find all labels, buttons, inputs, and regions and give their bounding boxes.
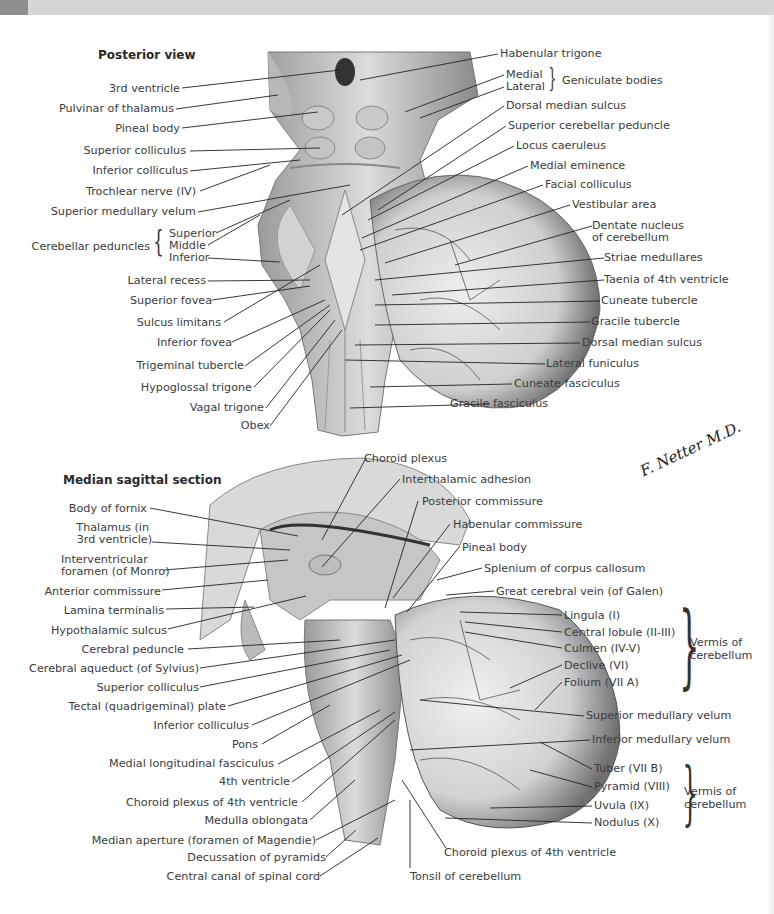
label-lamina-terminalis: Lamina terminalis	[64, 604, 164, 617]
label-medial-eminence: Medial eminence	[530, 159, 625, 172]
label-nodulus: Nodulus (X)	[594, 816, 659, 829]
label-pulvinar-of-thalamus: Pulvinar of thalamus	[59, 102, 174, 115]
label-geniculate-lateral: Lateral	[506, 80, 545, 93]
label-inferior-colliculus-sag: Inferior colliculus	[153, 719, 249, 732]
label-pons: Pons	[232, 738, 258, 751]
label-decussation-of-pyramids: Decussation of pyramids	[187, 851, 326, 864]
label-4th-ventricle: 4th ventricle	[219, 775, 290, 788]
label-trigeminal-tubercle: Trigeminal tubercle	[137, 359, 244, 372]
label-habenular-commissure: Habenular commissure	[453, 518, 582, 531]
label-uvula: Uvula (IX)	[594, 799, 649, 812]
label-body-of-fornix: Body of fornix	[69, 502, 147, 515]
label-interventricular-foramen-line2: foramen (of Monro)	[61, 565, 170, 578]
label-inferior-fovea: Inferior fovea	[157, 336, 232, 349]
label-3rd-ventricle: 3rd ventricle	[109, 82, 180, 95]
label-vermis-upper: Vermis of cerebellum	[690, 636, 760, 662]
label-peduncle-inferior: Inferior	[169, 251, 209, 264]
label-gracile-tubercle: Gracile tubercle	[591, 315, 680, 328]
label-habenular-trigone: Habenular trigone	[500, 47, 602, 60]
label-geniculate-bodies: Geniculate bodies	[562, 74, 663, 87]
label-tectal-plate: Tectal (quadrigeminal) plate	[69, 700, 226, 713]
brace-geniculate: {	[548, 63, 556, 93]
label-locus-caeruleus: Locus caeruleus	[516, 139, 606, 152]
label-vermis-lower: Vermis of cerebellum	[684, 785, 754, 811]
label-lateral-recess: Lateral recess	[128, 274, 206, 287]
label-folium: Folium (VII A)	[564, 676, 639, 689]
label-superior-colliculus-sag: Superior colliculus	[97, 681, 199, 694]
label-medial-longitudinal-fasciculus: Medial longitudinal fasciculus	[109, 757, 274, 770]
label-superior-medullary-velum: Superior medullary velum	[51, 205, 196, 218]
label-interthalamic-adhesion: Interthalamic adhesion	[402, 473, 531, 486]
label-striae-medullares: Striae medullares	[604, 251, 703, 264]
label-pyramid: Pyramid (VIII)	[594, 780, 670, 793]
label-superior-cerebellar-peduncle: Superior cerebellar peduncle	[508, 119, 670, 132]
label-gracile-fasciculus: Gracile fasciculus	[450, 397, 548, 410]
label-cuneate-fasciculus: Cuneate fasciculus	[514, 377, 620, 390]
label-posterior-commissure: Posterior commissure	[422, 495, 543, 508]
label-thalamus-line2: 3rd ventricle)	[77, 533, 152, 546]
label-superior-fovea: Superior fovea	[130, 294, 212, 307]
label-cerebral-peduncle: Cerebral peduncle	[81, 643, 184, 656]
posterior-view-title: Posterior view	[98, 48, 196, 62]
label-cerebral-aqueduct: Cerebral aqueduct (of Sylvius)	[29, 662, 199, 675]
label-splenium: Splenium of corpus callosum	[484, 562, 645, 575]
label-dorsal-median-sulcus-upper: Dorsal median sulcus	[506, 99, 626, 112]
label-trochlear-nerve: Trochlear nerve (IV)	[86, 185, 196, 198]
label-choroid-plexus: Choroid plexus	[364, 452, 447, 465]
label-culmen: Culmen (IV-V)	[564, 642, 641, 655]
label-hypothalamic-sulcus: Hypothalamic sulcus	[51, 624, 167, 637]
label-dorsal-median-sulcus-lower: Dorsal median sulcus	[582, 336, 702, 349]
label-facial-colliculus: Facial colliculus	[545, 178, 632, 191]
label-superior-medullary-velum-sag: Superior medullary velum	[586, 709, 731, 722]
label-pineal-body: Pineal body	[115, 122, 180, 135]
label-vestibular-area: Vestibular area	[572, 198, 656, 211]
label-medulla-oblongata: Medulla oblongata	[204, 814, 308, 827]
label-obex: Obex	[241, 419, 270, 432]
label-median-aperture: Median aperture (foramen of Magendie)	[92, 834, 316, 847]
label-lateral-funiculus: Lateral funiculus	[546, 357, 639, 370]
label-pineal-body-sag: Pineal body	[462, 541, 527, 554]
label-central-lobule: Central lobule (II-III)	[564, 626, 675, 639]
posterior-cerebellum-drawing	[370, 175, 600, 408]
label-declive: Declive (VI)	[564, 659, 629, 672]
label-choroid-plexus-4th-left: Choroid plexus of 4th ventricle	[126, 796, 298, 809]
label-cuneate-tubercle: Cuneate tubercle	[601, 294, 698, 307]
label-inferior-colliculus: Inferior colliculus	[92, 164, 188, 177]
label-tonsil-of-cerebellum: Tonsil of cerebellum	[410, 870, 521, 883]
label-anterior-commissure: Anterior commissure	[44, 585, 161, 598]
label-tuber: Tuber (VII B)	[594, 762, 663, 775]
brace-cerebellar-peduncles: {	[153, 226, 164, 256]
label-great-cerebral-vein: Great cerebral vein (of Galen)	[496, 585, 663, 598]
label-taenia-4th-ventricle: Taenia of 4th ventricle	[604, 273, 729, 286]
sagittal-section-title: Median sagittal section	[63, 473, 221, 487]
label-choroid-plexus-4th-bottom: Choroid plexus of 4th ventricle	[444, 846, 616, 859]
label-hypoglossal-trigone: Hypoglossal trigone	[141, 381, 252, 394]
label-superior-colliculus: Superior colliculus	[84, 144, 186, 157]
label-lingula: Lingula (I)	[564, 609, 620, 622]
label-inferior-medullary-velum: Inferior medullary velum	[592, 733, 730, 746]
label-dentate-nucleus-line2: of cerebellum	[592, 231, 669, 244]
label-central-canal: Central canal of spinal cord	[167, 870, 320, 883]
label-sulcus-limitans: Sulcus limitans	[137, 316, 221, 329]
label-vagal-trigone: Vagal trigone	[190, 401, 264, 414]
label-cerebellar-peduncles: Cerebellar peduncles	[32, 240, 150, 253]
